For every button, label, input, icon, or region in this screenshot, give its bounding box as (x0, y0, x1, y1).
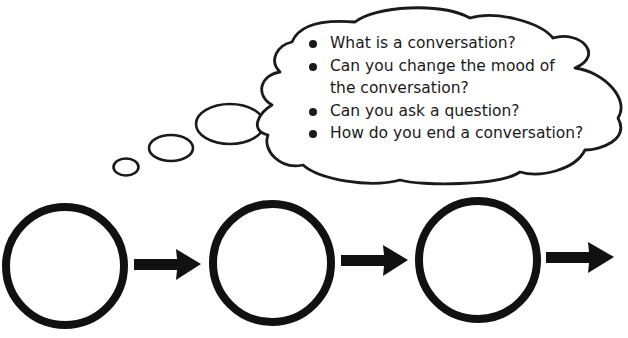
flow-step-circle-2[interactable] (213, 204, 331, 322)
question-text: Can you change the mood of (330, 55, 583, 78)
bullet-icon (309, 130, 317, 138)
bullet-icon (309, 108, 317, 116)
arrow-right-icon (546, 242, 614, 273)
thought-bubble-medium (149, 135, 193, 161)
arrow-right-icon (134, 249, 201, 280)
thought-bubble-large (196, 104, 264, 144)
arrow-right-icon (341, 245, 408, 276)
question-list: What is a conversation? Can you change t… (306, 32, 583, 145)
flow-step-circle-1[interactable] (6, 207, 124, 325)
question-text: What is a conversation? (330, 34, 516, 52)
question-item: What is a conversation? (306, 32, 583, 55)
question-text-continued: the conversation? (330, 77, 583, 100)
question-text: Can you ask a question? (330, 102, 520, 120)
thought-bubble-small (114, 159, 139, 176)
bullet-icon (309, 63, 317, 71)
question-item: Can you ask a question? (306, 100, 583, 123)
bullet-icon (309, 40, 317, 48)
question-item: Can you change the mood of the conversat… (306, 55, 583, 100)
flow-step-circle-3[interactable] (419, 201, 537, 319)
question-text: How do you end a conversation? (330, 124, 583, 142)
question-item: How do you end a conversation? (306, 122, 583, 145)
